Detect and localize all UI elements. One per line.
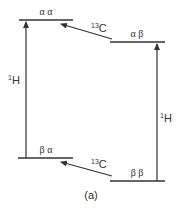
level-label-aa: α α <box>40 6 54 17</box>
level-label-ba: β α <box>40 144 54 155</box>
energy-level-diagram: α α α β β α β β 1H 1H 13C 13C (a) <box>0 0 186 209</box>
label-13c-top: 13C <box>91 22 107 34</box>
label-1h-left: 1H <box>8 74 20 86</box>
panel-label: (a) <box>84 189 97 201</box>
level-label-ab: α β <box>131 28 144 39</box>
label-1h-right: 1H <box>160 112 172 124</box>
label-13c-bottom: 13C <box>91 158 107 170</box>
level-label-bb: β β <box>131 167 144 178</box>
